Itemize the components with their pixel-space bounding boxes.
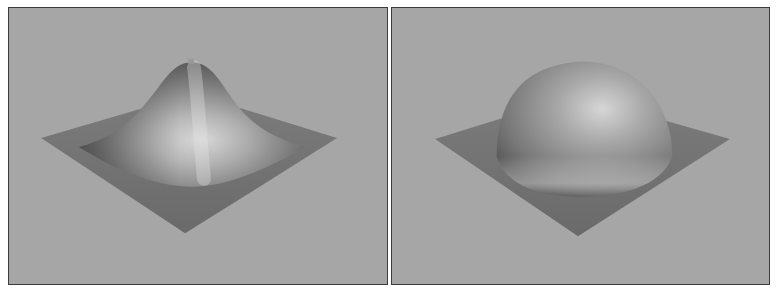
dome-surface-render (392, 8, 769, 284)
right-panel-dome-surface: 3D rendered surface: rounded dome / hemi… (391, 7, 770, 285)
cone-surface-render (9, 8, 387, 284)
left-panel-cone-surface: 3D rendered surface: Gaussian-like conic… (8, 7, 388, 285)
